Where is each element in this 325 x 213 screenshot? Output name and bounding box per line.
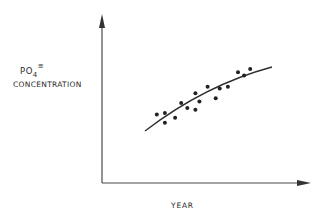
data-point <box>214 96 218 100</box>
chart <box>0 0 325 213</box>
data-point <box>197 100 201 104</box>
data-point <box>185 106 189 110</box>
data-point <box>179 101 183 105</box>
data-point <box>193 91 197 95</box>
data-point <box>206 85 210 89</box>
y-label-superscript: ≡ <box>38 62 44 70</box>
x-axis-arrow-icon <box>297 180 311 186</box>
x-axis-label: YEAR <box>171 201 194 210</box>
y-axis-label-formula: PO4≡ <box>20 64 44 79</box>
y-label-chem: PO <box>20 66 33 76</box>
data-point <box>236 70 240 74</box>
data-points <box>155 67 252 125</box>
y-axis-arrow-icon <box>99 14 105 28</box>
data-point <box>193 108 197 112</box>
data-point <box>155 113 159 117</box>
data-point <box>248 67 252 71</box>
data-point <box>242 73 246 77</box>
data-point <box>163 111 167 115</box>
data-point <box>226 85 230 89</box>
data-point <box>218 87 222 91</box>
y-axis-label: CONCENTRATION <box>13 80 82 89</box>
y-label-subscript: 4 <box>33 71 38 79</box>
data-point <box>163 121 167 125</box>
data-point <box>173 116 177 120</box>
